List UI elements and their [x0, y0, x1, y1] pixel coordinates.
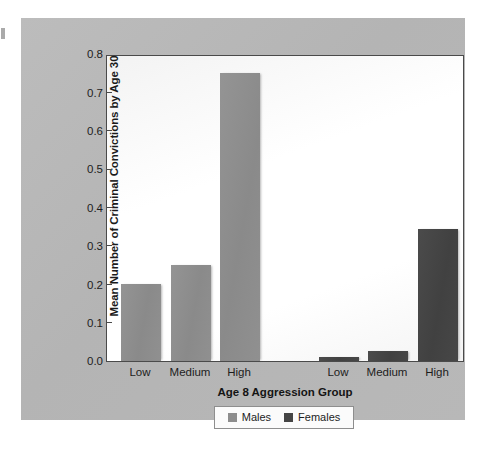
y-axis-tick-label: 0.4 — [87, 202, 107, 214]
y-axis-tick-mark — [107, 130, 112, 131]
y-axis-tick-label: 0.6 — [87, 126, 107, 138]
x-axis-label-males-high: High — [227, 366, 251, 378]
y-axis-tick-mark — [107, 169, 112, 170]
bar-females-high — [418, 229, 458, 361]
x-axis-title: Age 8 Aggression Group — [106, 386, 464, 398]
bar-males-medium — [171, 265, 211, 361]
legend-entry-males: Males — [228, 412, 271, 423]
y-axis-tick-label: 0.2 — [87, 279, 107, 291]
y-axis-tick-label: 0.7 — [87, 87, 107, 99]
legend-swatch-icon — [228, 413, 237, 422]
legend-label: Males — [242, 412, 271, 423]
y-axis-tick-label: 0.8 — [87, 49, 107, 61]
y-axis-tick-label: 0.0 — [87, 356, 107, 368]
legend-entry-females: Females — [284, 412, 340, 423]
x-axis-label-females-medium: Medium — [367, 366, 408, 378]
y-axis-tick-mark — [107, 245, 112, 246]
x-axis-label-females-high: High — [425, 366, 449, 378]
x-axis-label-males-medium: Medium — [170, 366, 211, 378]
y-axis-tick-mark — [107, 322, 112, 323]
y-axis-tick-mark — [107, 207, 112, 208]
chart-legend: MalesFemales — [214, 406, 354, 429]
legend-label: Females — [298, 412, 340, 423]
figure-panel: Mean Number of Criminal Convictions by A… — [21, 18, 465, 420]
bar-males-low — [121, 284, 161, 361]
bar-females-medium — [368, 351, 408, 361]
legend-swatch-icon — [284, 413, 293, 422]
plot-area: Mean Number of Criminal Convictions by A… — [106, 55, 464, 362]
y-axis-tick-label: 0.3 — [87, 241, 107, 253]
y-axis-tick-label: 0.1 — [87, 317, 107, 329]
y-axis-title: Mean Number of Criminal Convictions by A… — [108, 31, 120, 341]
scan-artifact-mark — [1, 28, 5, 39]
y-axis-tick-mark — [107, 284, 112, 285]
x-axis-label-males-low: Low — [129, 366, 150, 378]
x-axis-label-females-low: Low — [327, 366, 348, 378]
y-axis-tick-mark — [107, 92, 112, 93]
y-axis-tick-label: 0.5 — [87, 164, 107, 176]
bar-females-low — [319, 357, 359, 361]
bar-males-high — [220, 73, 260, 361]
